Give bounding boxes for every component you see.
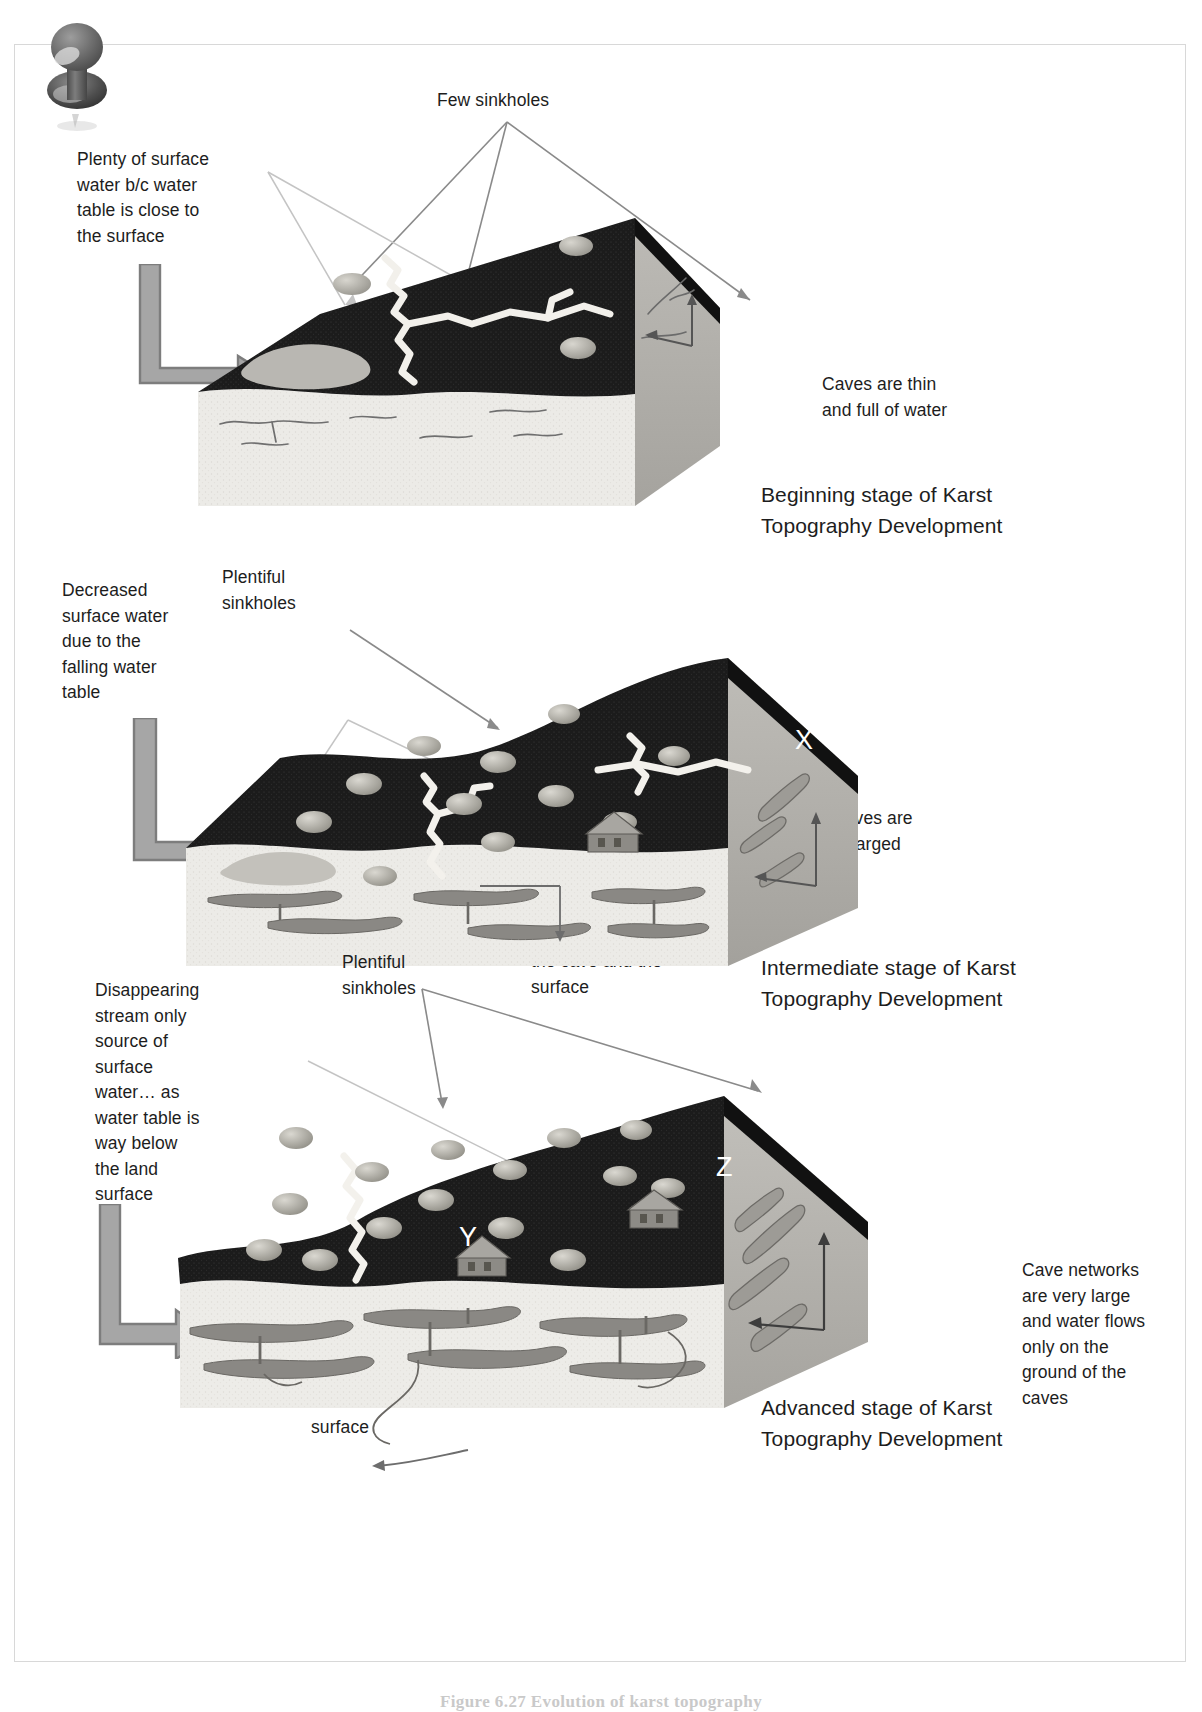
marker-y: Y [459, 1222, 477, 1253]
cave-networks-label: Cave networks are very large and water f… [1022, 1258, 1202, 1411]
karst-block-advanced [168, 1042, 888, 1472]
marker-z: Z [716, 1152, 733, 1183]
karst-block-beginning [180, 196, 720, 526]
stage-title-beginning: Beginning stage of Karst Topography Deve… [761, 479, 1101, 541]
marker-x: X [795, 725, 813, 756]
figure-caption: Figure 6.27 Evolution of karst topograph… [0, 1692, 1202, 1712]
pushpin-icon [36, 14, 118, 132]
karst-block-intermediate [168, 636, 868, 966]
